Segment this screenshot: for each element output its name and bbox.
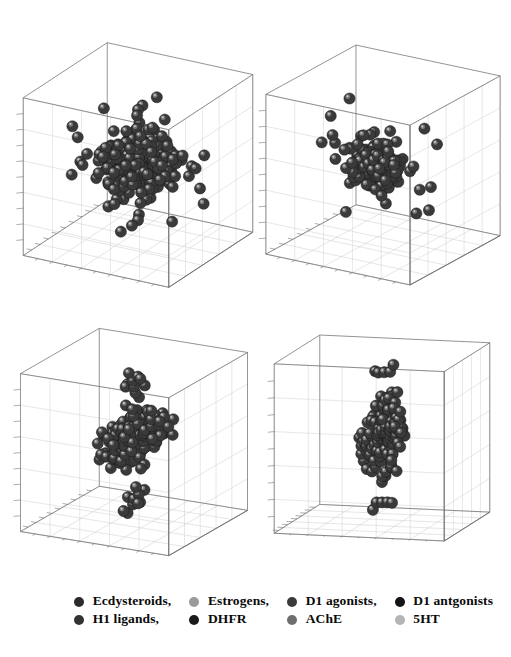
data-point-sphere — [167, 154, 178, 165]
data-point-sphere — [431, 139, 442, 150]
legend-label-dhfr: DHFR — [208, 610, 287, 628]
data-point-sphere — [167, 216, 178, 227]
data-point-sphere — [120, 160, 131, 171]
data-points — [66, 92, 210, 238]
legend-dot-ache — [287, 610, 306, 628]
data-point-sphere — [380, 175, 391, 186]
data-point-sphere — [423, 205, 434, 216]
data-point-sphere — [386, 455, 397, 466]
legend-label-ecdysteroids: Ecdysteroids, — [93, 592, 190, 610]
legend-label-5ht: 5HT — [413, 610, 511, 628]
data-point-sphere — [67, 121, 78, 132]
data-point-sphere — [327, 129, 338, 140]
legend-label-estrogens: Estrogens, — [208, 592, 287, 610]
data-point-sphere — [121, 126, 132, 137]
data-point-sphere — [130, 481, 141, 492]
data-point-sphere — [98, 103, 109, 114]
data-point-sphere — [154, 174, 165, 185]
data-point-sphere — [190, 163, 201, 174]
data-points — [92, 368, 179, 519]
data-point-sphere — [156, 130, 167, 141]
data-point-sphere — [392, 387, 403, 398]
data-point-sphere — [344, 93, 355, 104]
data-point-sphere — [170, 171, 181, 182]
data-point-sphere — [346, 157, 357, 168]
compound-class-legend: Ecdysteroids, Estrogens, D1 agonists, D1… — [0, 592, 511, 642]
data-point-sphere — [108, 167, 119, 178]
data-point-sphere — [316, 137, 327, 148]
data-point-sphere — [97, 151, 108, 162]
data-point-sphere — [198, 198, 209, 209]
data-points — [354, 359, 410, 515]
legend-dot-d1-agonists — [287, 592, 306, 610]
scatter-plot-panel-top-right[interactable] — [250, 25, 506, 315]
data-point-sphere — [126, 171, 137, 182]
legend-table: Ecdysteroids, Estrogens, D1 agonists, D1… — [74, 592, 511, 628]
data-point-sphere — [151, 92, 162, 103]
data-point-sphere — [118, 505, 129, 516]
data-point-sphere — [108, 184, 119, 195]
legend-marker-icon — [287, 615, 297, 625]
legend-dot-dhfr — [189, 610, 208, 628]
data-point-sphere — [115, 226, 126, 237]
data-point-sphere — [414, 184, 425, 195]
legend-label-d1-agonists: D1 agonists, — [306, 592, 395, 610]
data-point-sphere — [339, 144, 350, 155]
data-point-sphere — [146, 405, 157, 416]
legend-marker-icon — [287, 597, 297, 607]
legend-row-2: H1 ligands, DHFR AChE 5HT — [74, 610, 511, 628]
legend-label-d1-antagonists: D1 antgonists — [413, 592, 511, 610]
data-point-sphere — [325, 110, 336, 121]
legend-label-h1-ligands: H1 ligands, — [93, 610, 190, 628]
data-point-sphere — [108, 126, 119, 137]
data-point-sphere — [109, 198, 120, 209]
data-point-sphere — [127, 404, 138, 415]
data-point-sphere — [135, 198, 146, 209]
data-point-sphere — [386, 497, 397, 508]
legend-dot-estrogens — [189, 592, 208, 610]
data-point-sphere — [358, 130, 369, 141]
data-point-sphere — [408, 161, 419, 172]
data-point-sphere — [81, 148, 92, 159]
data-point-sphere — [77, 159, 88, 170]
legend-dot-ecdysteroids — [74, 592, 93, 610]
data-point-sphere — [411, 208, 422, 219]
data-point-sphere — [135, 131, 146, 142]
data-point-sphere — [156, 160, 167, 171]
legend-dot-d1-antagonists — [395, 592, 414, 610]
plot-grid — [0, 0, 511, 585]
legend-marker-icon — [189, 597, 199, 607]
data-point-sphere — [383, 146, 394, 157]
data-point-sphere — [136, 187, 147, 198]
data-point-sphere — [419, 123, 430, 134]
plot-svg-top-right — [250, 25, 506, 315]
data-point-sphere — [108, 439, 119, 450]
scatter-plot-panel-bottom-left[interactable] — [10, 310, 256, 585]
data-point-sphere — [388, 159, 399, 170]
data-point-sphere — [132, 498, 143, 509]
scatter-plot-panel-bottom-right[interactable] — [250, 310, 506, 585]
data-point-sphere — [126, 220, 137, 231]
data-point-sphere — [376, 190, 387, 201]
data-point-sphere — [167, 181, 178, 192]
data-point-sphere — [142, 169, 153, 180]
legend-marker-icon — [395, 597, 405, 607]
data-point-sphere — [395, 406, 406, 417]
data-point-sphere — [388, 359, 399, 370]
legend-marker-icon — [74, 615, 84, 625]
data-point-sphere — [154, 416, 165, 427]
plot-svg-bottom-left — [10, 310, 256, 585]
data-point-sphere — [425, 181, 436, 192]
legend-row-1: Ecdysteroids, Estrogens, D1 agonists, D1… — [74, 592, 511, 610]
scatter-plot-panel-top-left[interactable] — [10, 25, 256, 315]
data-point-sphere — [135, 463, 146, 474]
data-point-sphere — [391, 466, 402, 477]
plot-svg-bottom-right — [250, 310, 506, 585]
data-point-sphere — [177, 150, 188, 161]
data-points — [316, 93, 443, 219]
data-point-sphere — [199, 150, 210, 161]
data-point-sphere — [131, 110, 142, 121]
data-point-sphere — [109, 149, 120, 160]
legend-marker-icon — [395, 615, 405, 625]
legend-dot-h1-ligands — [74, 610, 93, 628]
